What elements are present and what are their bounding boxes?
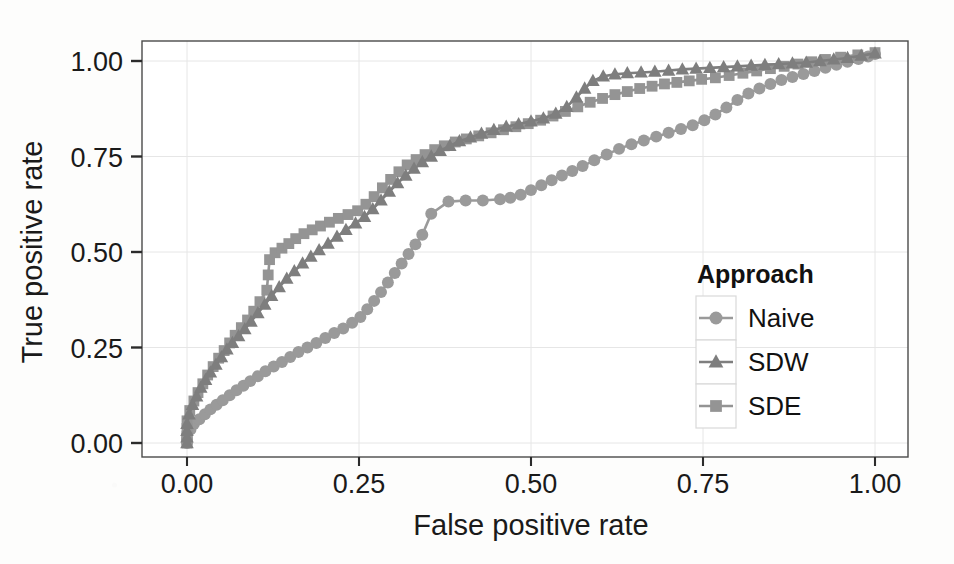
square-marker <box>585 97 596 108</box>
circle-marker <box>546 174 558 186</box>
legend-circle-icon <box>710 312 723 325</box>
circle-marker <box>753 83 765 95</box>
circle-marker <box>409 238 421 250</box>
circle-marker <box>525 184 537 196</box>
circle-marker <box>477 194 489 206</box>
circle-marker <box>720 102 732 114</box>
circle-marker <box>625 138 637 150</box>
square-marker <box>610 89 621 100</box>
x-tick-label: 0.50 <box>505 469 558 499</box>
circle-marker <box>556 170 568 182</box>
circle-marker <box>403 248 415 260</box>
circle-marker <box>504 192 516 204</box>
legend-label: SDW <box>748 347 809 377</box>
square-marker <box>622 86 633 97</box>
circle-marker <box>396 257 408 269</box>
square-marker <box>647 81 658 92</box>
square-marker <box>710 72 721 83</box>
roc-plot-svg: 0.000.250.500.751.00 0.000.250.500.751.0… <box>0 0 954 564</box>
y-axis-title: True positive rate <box>16 141 48 364</box>
y-axis-tick-labels: 0.000.250.500.751.00 <box>70 47 123 459</box>
circle-marker <box>515 189 527 201</box>
circle-marker <box>731 94 743 106</box>
circle-marker <box>382 277 394 289</box>
legend-label: SDE <box>748 391 801 421</box>
square-marker <box>684 75 695 86</box>
y-tick-label: 0.00 <box>70 429 123 459</box>
x-tick-label: 0.25 <box>333 469 386 499</box>
circle-marker <box>588 154 600 166</box>
circle-marker <box>698 114 710 126</box>
circle-marker <box>416 229 428 241</box>
y-tick-label: 0.75 <box>70 143 123 173</box>
circle-marker <box>687 119 699 131</box>
square-marker <box>659 79 670 90</box>
square-marker <box>597 93 608 104</box>
circle-marker <box>764 78 776 90</box>
circle-marker <box>786 71 798 83</box>
legend-square-icon <box>710 400 722 412</box>
square-marker <box>671 77 682 88</box>
circle-marker <box>442 196 454 208</box>
square-marker <box>696 74 707 85</box>
y-tick-label: 0.25 <box>70 334 123 364</box>
x-axis-title: False positive rate <box>413 509 648 541</box>
circle-marker <box>425 208 437 220</box>
chart-figure: 0.000.250.500.751.00 0.000.250.500.751.0… <box>0 0 954 564</box>
circle-marker <box>375 286 387 298</box>
circle-marker <box>742 87 754 99</box>
circle-marker <box>601 149 613 161</box>
x-axis-tick-labels: 0.000.250.500.751.00 <box>161 469 902 499</box>
circle-marker <box>577 160 589 172</box>
x-tick-label: 1.00 <box>849 469 902 499</box>
circle-marker <box>775 74 787 86</box>
legend-label: Naive <box>748 303 814 333</box>
x-tick-label: 0.00 <box>161 469 214 499</box>
circle-marker <box>460 194 472 206</box>
square-marker <box>333 213 344 224</box>
square-marker <box>634 83 645 94</box>
square-marker <box>343 209 354 220</box>
x-tick-label: 0.75 <box>677 469 730 499</box>
y-tick-label: 0.50 <box>70 238 123 268</box>
circle-marker <box>494 193 506 205</box>
circle-marker <box>650 131 662 143</box>
circle-marker <box>613 143 625 155</box>
square-marker <box>263 270 274 281</box>
circle-marker <box>675 123 687 135</box>
circle-marker <box>638 134 650 146</box>
circle-marker <box>797 68 809 80</box>
circle-marker <box>709 109 721 121</box>
circle-marker <box>566 165 578 177</box>
y-tick-label: 1.00 <box>70 47 123 77</box>
square-marker <box>572 101 583 112</box>
legend-title: Approach <box>697 260 814 288</box>
circle-marker <box>663 127 675 139</box>
circle-marker <box>535 179 547 191</box>
circle-marker <box>389 267 401 279</box>
